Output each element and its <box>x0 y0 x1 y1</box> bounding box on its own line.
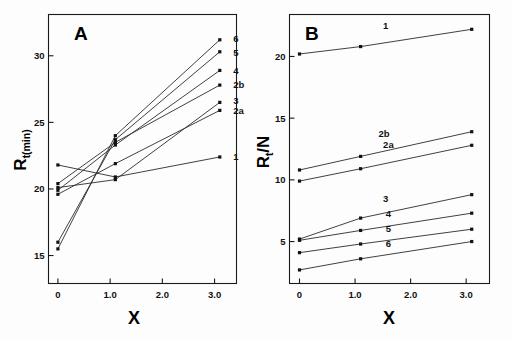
panel-a-yaxis-title: Rt(min) <box>11 129 32 170</box>
data-point-6 <box>470 240 473 243</box>
data-point-3 <box>359 217 362 220</box>
x-tick-label: 0 <box>55 289 60 300</box>
series-label-3: 3 <box>233 95 238 106</box>
data-point-2a <box>470 144 473 147</box>
data-point-2a <box>359 167 362 170</box>
series-label-2a: 2a <box>383 139 394 150</box>
x-tick-label: 1.0 <box>104 289 117 300</box>
data-point-5 <box>359 242 362 245</box>
data-point-2a <box>298 179 301 182</box>
data-point-3 <box>114 178 117 181</box>
x-tick-label: 1.0 <box>348 289 361 300</box>
series-label-6: 6 <box>386 238 391 249</box>
panel-a-yaxis-title-text: Rt(min) <box>11 129 32 170</box>
panel-a-series-labels: 12a2b3456 <box>233 33 244 163</box>
panel-a-frame <box>49 15 237 284</box>
data-point-4 <box>218 69 221 72</box>
data-point-3 <box>218 101 221 104</box>
data-point-2a <box>218 109 221 112</box>
data-point-6 <box>298 268 301 271</box>
data-point-6 <box>359 257 362 260</box>
series-line-2a <box>58 110 220 194</box>
panel-b-tick-labels: 01.02.03.05101520 <box>275 51 473 300</box>
x-tick-label: 2.0 <box>404 289 417 300</box>
series-label-2b: 2b <box>233 79 244 90</box>
panel-a-xaxis-title: X <box>128 308 140 328</box>
panel-a-data-points <box>56 38 221 250</box>
series-label-4: 4 <box>233 65 239 76</box>
series-label-4: 4 <box>386 208 392 219</box>
x-tick-label: 3.0 <box>208 289 221 300</box>
data-point-2a <box>56 193 59 196</box>
data-point-1 <box>218 155 221 158</box>
x-tick-label: 2.0 <box>156 289 169 300</box>
series-label-2b: 2b <box>378 128 389 139</box>
panel-a-ticks <box>49 56 215 284</box>
series-label-6: 6 <box>233 33 238 44</box>
data-point-2b <box>359 155 362 158</box>
panel-b: 01.02.03.05101520 12a2b3456 B X Rt/N <box>256 0 512 339</box>
panel-b-series-labels: 12a2b3456 <box>378 20 394 249</box>
data-point-6 <box>56 247 59 250</box>
data-point-4 <box>114 143 117 146</box>
data-point-2b <box>218 83 221 86</box>
panel-b-label: B <box>305 23 319 44</box>
data-point-5 <box>470 228 473 231</box>
data-point-1 <box>470 28 473 31</box>
panel-b-yaxis-title: Rt/N <box>256 136 275 169</box>
data-point-2a <box>114 162 117 165</box>
panel-a: 01.02.03.015202530 12a2b3456 A X Rt(min) <box>0 0 256 339</box>
panel-b-svg: 01.02.03.05101520 12a2b3456 B X Rt/N <box>256 0 512 339</box>
panel-b-ticks <box>290 56 467 283</box>
series-label-3: 3 <box>383 193 388 204</box>
series-label-1: 1 <box>383 20 389 31</box>
data-point-6 <box>218 38 221 41</box>
y-tick-label: 15 <box>275 113 286 124</box>
y-tick-label: 25 <box>34 117 45 128</box>
figure-container: 01.02.03.015202530 12a2b3456 A X Rt(min)… <box>0 0 512 339</box>
series-label-1: 1 <box>233 151 239 162</box>
series-label-5: 5 <box>386 223 392 234</box>
series-line-3 <box>58 102 220 187</box>
data-point-2b <box>470 130 473 133</box>
panel-a-svg: 01.02.03.015202530 12a2b3456 A X Rt(min) <box>0 0 256 339</box>
data-point-2b <box>298 168 301 171</box>
data-point-5 <box>56 241 59 244</box>
data-point-2b <box>56 182 59 185</box>
y-tick-label: 30 <box>34 50 45 61</box>
data-point-5 <box>114 138 117 141</box>
data-point-6 <box>114 134 117 137</box>
data-point-4 <box>56 189 59 192</box>
series-line-1 <box>300 29 472 54</box>
data-point-1 <box>298 52 301 55</box>
data-point-4 <box>359 229 362 232</box>
y-tick-label: 10 <box>275 174 286 185</box>
panel-a-data-lines <box>58 40 220 249</box>
series-line-1 <box>58 157 220 177</box>
y-tick-label: 20 <box>275 51 286 62</box>
series-label-5: 5 <box>233 47 239 58</box>
panel-b-yaxis-title-text: Rt/N <box>256 136 275 169</box>
data-point-4 <box>470 212 473 215</box>
data-point-3 <box>470 193 473 196</box>
y-tick-label: 15 <box>34 250 45 261</box>
panel-b-xaxis-title: X <box>383 308 395 328</box>
data-point-1 <box>359 45 362 48</box>
data-point-1 <box>56 163 59 166</box>
data-point-5 <box>298 251 301 254</box>
y-tick-label: 20 <box>34 183 45 194</box>
panel-a-label: A <box>74 23 88 44</box>
x-tick-label: 3.0 <box>460 289 473 300</box>
y-tick-label: 5 <box>280 236 286 247</box>
series-line-6 <box>58 40 220 249</box>
x-tick-label: 0 <box>297 289 302 300</box>
series-line-5 <box>58 52 220 242</box>
series-line-2b <box>58 85 220 184</box>
data-point-4 <box>298 239 301 242</box>
data-point-5 <box>218 50 221 53</box>
